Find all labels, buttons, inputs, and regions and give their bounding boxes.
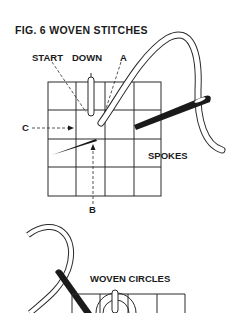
label-down: DOWN [72, 52, 102, 63]
label-woven-circles: WOVEN CIRCLES [90, 273, 170, 284]
arrow-b-head [91, 144, 96, 150]
label-start: START [32, 52, 63, 63]
spokes-grid [48, 82, 161, 196]
label-c: C [22, 122, 29, 133]
start-down-stitch [88, 73, 94, 116]
needle-lower [55, 269, 92, 313]
arrow-c-head [68, 126, 74, 131]
spoke-stroke [52, 139, 97, 155]
label-a: A [120, 52, 127, 63]
thread-lower [28, 227, 71, 313]
woven-stitches-diagram [0, 0, 231, 313]
label-spokes: SPOKES [148, 150, 188, 161]
label-b: B [89, 204, 96, 215]
